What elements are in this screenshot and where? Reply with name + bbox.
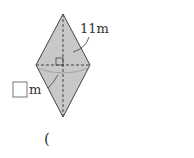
unknown-unit-label: m [29,82,41,97]
answer-box[interactable] [13,82,27,97]
answer-parenthesis: ( [44,130,50,148]
side-length-label: 11m [80,21,109,36]
